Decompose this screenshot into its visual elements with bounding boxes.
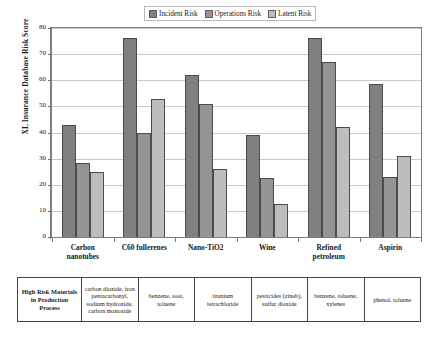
y-tick-label-10: 10 bbox=[39, 206, 46, 214]
x-axis-label-nano-tio2: Nano-TiO2 bbox=[175, 243, 237, 252]
y-tick-label-0: 0 bbox=[43, 232, 47, 240]
bar-c60-fullerenes-incident-risk bbox=[123, 38, 137, 237]
x-axis-label-carbon-nanotubes: Carbonnanotubes bbox=[52, 243, 114, 261]
bar-carbon-nanotubes-operations-risk bbox=[76, 163, 90, 237]
y-tick-0: 0 bbox=[0, 237, 51, 238]
x-axis-label-line: Refined bbox=[298, 243, 360, 252]
legend-swatch-latent-risk bbox=[268, 10, 276, 18]
y-tick-60: 60 bbox=[0, 80, 51, 81]
y-tick-mark-60 bbox=[48, 80, 51, 81]
y-tick-mark-20 bbox=[48, 185, 51, 186]
bar-series-layer bbox=[52, 28, 421, 237]
x-axis-label-c60-fullerenes: C60 fullerenes bbox=[114, 243, 176, 252]
y-tick-label-50: 50 bbox=[39, 101, 46, 109]
materials-cell-aspirin: phenol, toluene bbox=[365, 278, 421, 321]
x-tick-6 bbox=[421, 238, 422, 242]
legend-label-incident-risk: Incident Risk bbox=[159, 10, 198, 18]
bar-aspirin-latent-risk bbox=[397, 156, 411, 237]
bar-wine-operations-risk bbox=[260, 178, 274, 237]
x-tick-1 bbox=[114, 238, 115, 242]
x-tick-4 bbox=[298, 238, 299, 242]
y-tick-80: 80 bbox=[0, 28, 51, 29]
legend-label-latent-risk: Latent Risk bbox=[278, 10, 311, 18]
y-tick-label-70: 70 bbox=[39, 49, 46, 57]
x-axis-label-line: Carbon bbox=[52, 243, 114, 252]
x-axis-label-line: Aspirin bbox=[360, 243, 422, 252]
bar-wine-latent-risk bbox=[274, 204, 288, 237]
x-axis-label-aspirin: Aspirin bbox=[360, 243, 422, 252]
bar-nano-tio2-incident-risk bbox=[185, 75, 199, 237]
x-axis-label-wine: Wine bbox=[237, 243, 299, 252]
bar-wine-incident-risk bbox=[246, 135, 260, 237]
x-axis-label-refined-petroleum: Refinedpetroleum bbox=[298, 243, 360, 261]
y-tick-30: 30 bbox=[0, 159, 51, 160]
bar-c60-fullerenes-operations-risk bbox=[137, 133, 151, 238]
bar-aspirin-operations-risk bbox=[383, 177, 397, 237]
legend-swatch-incident-risk bbox=[149, 10, 157, 18]
y-tick-label-80: 80 bbox=[39, 23, 46, 31]
materials-table: High Risk Materials in Production Proces… bbox=[17, 277, 421, 322]
y-tick-label-20: 20 bbox=[39, 180, 46, 188]
x-tick-2 bbox=[175, 238, 176, 242]
y-tick-mark-80 bbox=[48, 28, 51, 29]
y-tick-mark-10 bbox=[48, 211, 51, 212]
bar-carbon-nanotubes-incident-risk bbox=[62, 125, 76, 237]
bar-group-nano-tio2 bbox=[175, 28, 237, 237]
materials-cell-wine: pesticides (zineb), sulfur dioxide bbox=[252, 278, 309, 321]
materials-cell-c60-fullerenes: benzene, soot, toluene bbox=[139, 278, 196, 321]
y-tick-label-30: 30 bbox=[39, 154, 46, 162]
bar-group-carbon-nanotubes bbox=[52, 28, 114, 237]
y-tick-10: 10 bbox=[0, 211, 51, 212]
bar-group-refined-petroleum bbox=[298, 28, 360, 237]
bar-refined-petroleum-incident-risk bbox=[308, 38, 322, 237]
bar-nano-tio2-operations-risk bbox=[199, 104, 213, 237]
y-tick-mark-70 bbox=[48, 54, 51, 55]
bar-group-wine bbox=[237, 28, 299, 237]
chart-legend: Incident Risk Operations Risk Latent Ris… bbox=[144, 6, 316, 21]
bar-group-c60-fullerenes bbox=[114, 28, 176, 237]
x-tick-3 bbox=[237, 238, 238, 242]
y-tick-70: 70 bbox=[0, 54, 51, 55]
y-tick-mark-30 bbox=[48, 159, 51, 160]
x-tick-0 bbox=[52, 238, 53, 242]
y-tick-label-60: 60 bbox=[39, 75, 46, 83]
bar-carbon-nanotubes-latent-risk bbox=[90, 172, 104, 237]
chart-page: Incident Risk Operations Risk Latent Ris… bbox=[0, 0, 436, 337]
y-tick-50: 50 bbox=[0, 106, 51, 107]
legend-swatch-operations-risk bbox=[205, 10, 213, 18]
x-axis-label-line: Wine bbox=[237, 243, 299, 252]
x-axis-label-line: C60 fullerenes bbox=[114, 243, 176, 252]
y-tick-mark-40 bbox=[48, 133, 51, 134]
bar-refined-petroleum-latent-risk bbox=[336, 127, 350, 237]
materials-table-header: High Risk Materials in Production Proces… bbox=[18, 278, 82, 321]
y-tick-mark-0 bbox=[48, 237, 51, 238]
bar-aspirin-incident-risk bbox=[369, 84, 383, 237]
materials-cell-refined-petroleum: benzene, toluene, xylenes bbox=[308, 278, 365, 321]
x-tick-5 bbox=[360, 238, 361, 242]
bar-refined-petroleum-operations-risk bbox=[322, 62, 336, 237]
x-axis-label-line: Nano-TiO2 bbox=[175, 243, 237, 252]
y-tick-40: 40 bbox=[0, 133, 51, 134]
y-axis-ticks: 01020304050607080 bbox=[0, 27, 51, 238]
legend-label-operations-risk: Operations Risk bbox=[215, 10, 262, 18]
materials-cell-nano-tio2: titanium tetrachloride bbox=[195, 278, 252, 321]
legend-item-incident-risk: Incident Risk bbox=[149, 10, 198, 18]
y-tick-mark-50 bbox=[48, 106, 51, 107]
bar-c60-fullerenes-latent-risk bbox=[151, 99, 165, 237]
materials-cell-carbon-nanotubes: carbon dioxide, iron pentacarbonyl, sodi… bbox=[82, 278, 139, 321]
y-tick-20: 20 bbox=[0, 185, 51, 186]
x-axis-label-line: petroleum bbox=[298, 252, 360, 261]
legend-item-latent-risk: Latent Risk bbox=[268, 10, 311, 18]
x-axis-labels: CarbonnanotubesC60 fullerenesNano-TiO2Wi… bbox=[52, 243, 421, 269]
x-axis-label-line: nanotubes bbox=[52, 252, 114, 261]
bar-nano-tio2-latent-risk bbox=[213, 169, 227, 237]
legend-item-operations-risk: Operations Risk bbox=[205, 10, 262, 18]
bar-group-aspirin bbox=[360, 28, 422, 237]
y-tick-label-40: 40 bbox=[39, 128, 46, 136]
